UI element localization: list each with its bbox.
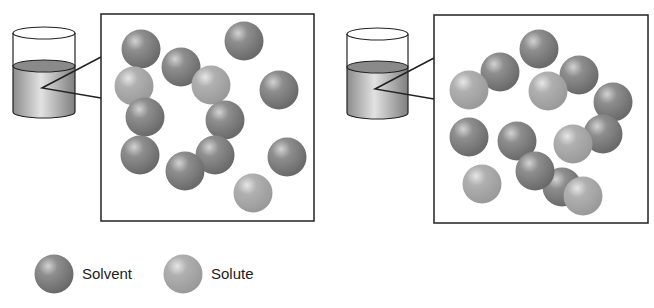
solute-particle	[192, 66, 231, 105]
solvent-particle	[122, 30, 161, 69]
legend-solvent-icon	[35, 255, 74, 294]
solvent-particle	[126, 98, 165, 137]
solute-particle	[564, 177, 603, 216]
beaker-icon	[13, 27, 75, 118]
solute-particle	[529, 72, 568, 111]
panel-right	[347, 15, 648, 223]
solvent-particle	[450, 118, 489, 157]
legend-label-solute: Solute	[211, 265, 254, 282]
beaker-icon	[347, 28, 408, 119]
legend-label-solvent: Solvent	[82, 265, 132, 282]
solvent-particle	[260, 71, 299, 110]
solvent-particle	[268, 138, 307, 177]
solvent-particle	[166, 152, 205, 191]
solvent-particle	[520, 30, 559, 69]
solvent-particle	[121, 136, 160, 175]
solute-particle	[554, 125, 593, 164]
solvent-particle	[516, 152, 555, 191]
solvent-particle	[206, 101, 245, 140]
panel-left	[13, 14, 314, 221]
solvent-particle	[225, 22, 264, 61]
solution-diagram	[0, 0, 654, 308]
solute-particle	[463, 165, 502, 204]
legend-solute-icon	[164, 255, 203, 294]
solute-particle	[450, 71, 489, 110]
solute-particle	[234, 174, 273, 213]
